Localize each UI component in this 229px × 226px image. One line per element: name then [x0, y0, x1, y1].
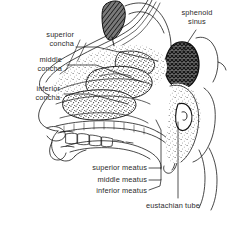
label-eustachian-tube: eustachian tube: [146, 202, 229, 211]
pharyngeal-wall: [199, 148, 217, 210]
teeth: [66, 133, 133, 147]
figure-canvas: superior concha middle concha inferior c…: [0, 0, 229, 226]
leader-inferior-meatus: [149, 180, 161, 190]
leader-middle-meatus: [149, 168, 161, 180]
label-superior-concha-line2: concha: [6, 40, 74, 49]
label-middle-concha: middle concha: [2, 56, 62, 73]
label-sphenoid-sinus-line2: sinus: [168, 18, 226, 27]
label-inferior-meatus: inferior meatus: [69, 187, 147, 196]
label-superior-meatus: superior meatus: [69, 164, 147, 173]
label-middle-meatus: middle meatus: [69, 176, 147, 185]
lips: [47, 127, 74, 161]
sphenoid-sinus: [165, 42, 199, 89]
label-inferior-concha: inferior concha: [2, 85, 60, 102]
label-middle-concha-line2: concha: [2, 65, 62, 74]
hard-palate: [56, 121, 160, 139]
label-sphenoid-sinus: sphenoid sinus: [168, 9, 226, 26]
label-superior-concha: superior concha: [6, 31, 74, 48]
label-inferior-concha-line2: concha: [2, 94, 60, 103]
